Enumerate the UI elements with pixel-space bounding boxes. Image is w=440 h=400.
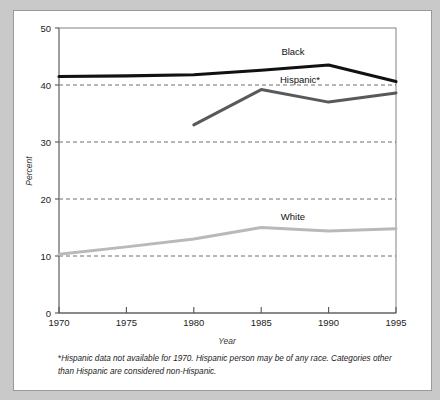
x-axis-tick-labels: 1970 1975 1980 1985 1990 1995 — [48, 317, 406, 328]
figure-outer-frame: 50 40 30 20 10 0 Percent 1970 19 — [0, 0, 440, 400]
y-tick-label-40: 40 — [40, 80, 51, 91]
series-label-hispanic: Hispanic* — [280, 74, 320, 85]
series-label-black: Black — [281, 46, 304, 57]
series-label-white: White — [281, 211, 305, 222]
x-tick-label-1970: 1970 — [48, 317, 69, 328]
x-tick-label-1985: 1985 — [251, 317, 272, 328]
footnote-text: Hispanic data not available for 1970. Hi… — [58, 354, 392, 376]
y-tick-label-20: 20 — [40, 194, 51, 205]
chart-footnote: *Hispanic data not available for 1970. H… — [58, 353, 408, 378]
y-tick-label-30: 30 — [40, 137, 51, 148]
x-tick-label-1990: 1990 — [318, 317, 339, 328]
figure-panel: 50 40 30 20 10 0 Percent 1970 19 — [13, 10, 432, 391]
line-chart: 50 40 30 20 10 0 Percent 1970 19 — [14, 11, 433, 392]
y-axis-tick-labels: 50 40 30 20 10 0 — [40, 23, 51, 319]
y-tick-label-10: 10 — [40, 251, 51, 262]
x-tick-label-1975: 1975 — [116, 317, 137, 328]
x-tick-label-1995: 1995 — [385, 317, 406, 328]
y-axis-title: Percent — [24, 156, 34, 186]
y-tick-label-50: 50 — [40, 23, 51, 34]
x-tick-label-1980: 1980 — [183, 317, 204, 328]
x-axis-title: Year — [218, 336, 237, 346]
